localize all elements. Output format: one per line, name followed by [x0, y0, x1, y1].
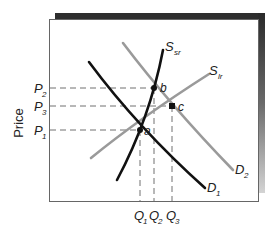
label-ssr-base: S [165, 39, 174, 54]
label-d1-base: D [207, 180, 216, 195]
label-d2-sub: 2 [243, 171, 249, 180]
q1-sub: 1 [143, 217, 147, 226]
label-slr-sub: lr [218, 72, 223, 81]
q2-sub: 2 [157, 217, 163, 226]
p2-sub: 2 [41, 90, 47, 99]
label-d1-sub: 1 [216, 189, 220, 198]
point-label-c: c [178, 100, 184, 114]
label-slr-base: S [209, 63, 218, 78]
quantity-label-q1: Q 1 [134, 208, 147, 226]
quantity-label-q3: Q 3 [166, 208, 180, 226]
point-label-b: b [160, 81, 167, 95]
frame-shadow-top [55, 13, 265, 20]
label-ssr-sub: sr [174, 48, 181, 57]
price-label-p2: P 2 [34, 81, 47, 99]
price-label-p1: P 1 [34, 123, 46, 141]
economics-diagram: a b c S sr S lr D 2 D 1 P 2 P 3 P 1 Q 1 … [0, 0, 273, 233]
point-c [169, 103, 175, 109]
label-d2-base: D [235, 162, 244, 177]
y-axis-title: Price [11, 108, 26, 138]
q3-sub: 3 [175, 217, 180, 226]
price-label-p3: P 3 [34, 99, 47, 117]
point-label-a: a [144, 124, 151, 138]
p3-sub: 3 [42, 108, 47, 117]
point-a [137, 127, 143, 133]
frame-shadow-right [258, 13, 265, 193]
quantity-label-q2: Q 2 [149, 208, 163, 226]
p1-sub: 1 [42, 132, 46, 141]
point-b [151, 85, 157, 91]
